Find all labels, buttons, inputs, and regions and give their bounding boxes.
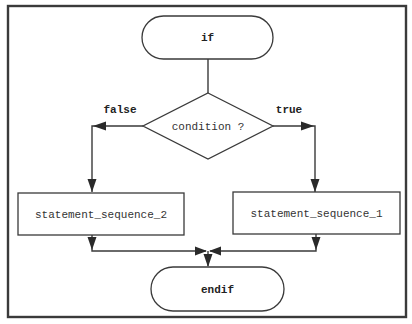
- decision-label: condition ?: [172, 121, 245, 133]
- true-label: true: [276, 104, 303, 116]
- edge-merge-left: [88, 235, 208, 256]
- decision-node: condition ?: [143, 93, 273, 159]
- arrow-down-icon: [204, 254, 213, 267]
- arrow-down-icon: [88, 237, 97, 250]
- flowchart-diagram: if condition ? false true statement_sequ…: [0, 0, 412, 324]
- start-label: if: [201, 32, 215, 44]
- arrow-right-icon: [301, 122, 314, 131]
- statement-sequence-1-label: statement_sequence_1: [250, 208, 382, 220]
- end-label: endif: [201, 284, 234, 296]
- edge-true: true: [273, 104, 320, 192]
- edge-merge-right: [209, 234, 321, 256]
- arrow-left-icon: [93, 122, 106, 131]
- statement-sequence-2-label: statement_sequence_2: [35, 209, 167, 221]
- edge-false: false: [88, 104, 144, 192]
- arrow-down-icon: [311, 179, 320, 192]
- arrow-down-icon: [312, 237, 321, 250]
- edge-merge-to-endif: [204, 251, 213, 267]
- start-node: if: [142, 16, 273, 59]
- true-branch-node: statement_sequence_1: [233, 192, 400, 234]
- false-label: false: [103, 104, 136, 116]
- false-branch-node: statement_sequence_2: [18, 193, 184, 235]
- end-node: endif: [151, 267, 284, 311]
- arrow-down-icon: [88, 179, 97, 192]
